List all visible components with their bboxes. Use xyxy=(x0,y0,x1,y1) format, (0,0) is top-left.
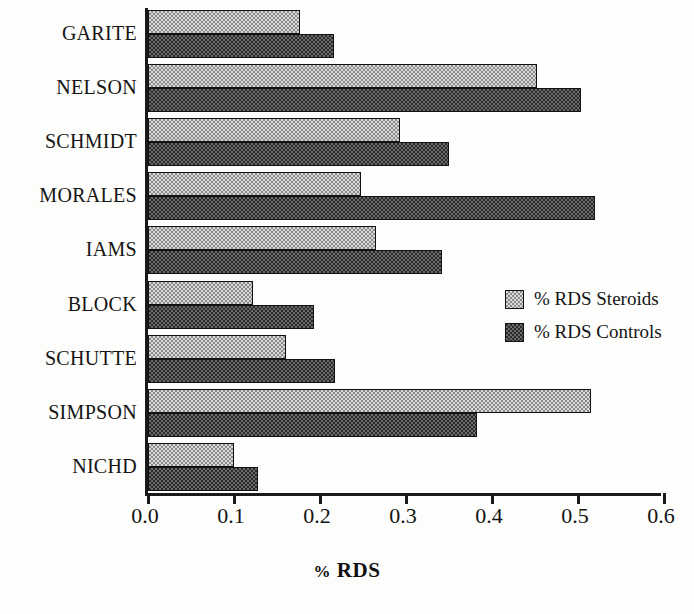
category-label-nichd: NICHD xyxy=(5,455,145,478)
x-tick-label-3: 0.3 xyxy=(389,503,417,529)
legend-item-steroids: % RDS Steroids xyxy=(505,288,662,310)
rds-bar-chart: GARITE NELSON SCHMIDT MORALES IAMS BLOCK… xyxy=(0,0,694,614)
x-tick-label-1: 0.1 xyxy=(217,503,245,529)
category-label-schmidt: SCHMIDT xyxy=(5,130,145,153)
plot-area xyxy=(145,8,661,496)
legend: % RDS Steroids % RDS Controls xyxy=(505,288,662,354)
bar-iams-controls xyxy=(148,250,442,274)
bar-nichd-controls xyxy=(148,467,258,491)
bar-garite-controls xyxy=(148,34,334,58)
category-label-garite: GARITE xyxy=(5,22,145,45)
category-label-block: BLOCK xyxy=(5,293,145,316)
x-tick-label-2: 0.2 xyxy=(303,503,331,529)
legend-swatch-controls-icon xyxy=(505,323,524,342)
legend-swatch-steroids-icon xyxy=(505,290,524,309)
bar-block-controls xyxy=(148,305,314,329)
bar-schmidt-steroids xyxy=(148,118,400,142)
bar-simpson-steroids xyxy=(148,389,591,413)
x-axis-title-percent: % xyxy=(314,562,332,581)
category-label-nelson: NELSON xyxy=(5,76,145,99)
x-axis-title: % RDS xyxy=(0,558,694,583)
bar-schutte-steroids xyxy=(148,335,286,359)
bar-simpson-controls xyxy=(148,413,477,437)
x-tick-label-5: 0.5 xyxy=(561,503,589,529)
category-label-column: GARITE NELSON SCHMIDT MORALES IAMS BLOCK… xyxy=(0,8,145,496)
x-tick-label-0: 0.0 xyxy=(131,503,159,529)
bar-schmidt-controls xyxy=(148,142,449,166)
bar-morales-controls xyxy=(148,196,595,220)
bar-iams-steroids xyxy=(148,226,376,250)
legend-item-controls: % RDS Controls xyxy=(505,321,662,343)
category-label-schutte: SCHUTTE xyxy=(5,347,145,370)
legend-label-controls: % RDS Controls xyxy=(534,321,662,343)
bar-block-steroids xyxy=(148,281,253,305)
bar-garite-steroids xyxy=(148,10,300,34)
legend-label-steroids: % RDS Steroids xyxy=(534,288,659,310)
x-tick-label-6: 0.6 xyxy=(647,503,675,529)
category-label-morales: MORALES xyxy=(5,184,145,207)
category-label-simpson: SIMPSON xyxy=(5,401,145,424)
bar-schutte-controls xyxy=(148,359,335,383)
x-tick-label-4: 0.4 xyxy=(475,503,503,529)
bar-nichd-steroids xyxy=(148,443,234,467)
category-label-iams: IAMS xyxy=(5,238,145,261)
bar-nelson-controls xyxy=(148,88,581,112)
bar-nelson-steroids xyxy=(148,64,537,88)
bar-morales-steroids xyxy=(148,172,361,196)
x-axis-title-text: RDS xyxy=(331,558,380,582)
